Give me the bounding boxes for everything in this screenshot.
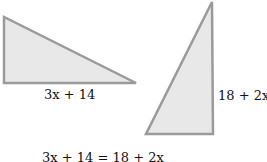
right-triangle-side-label: 18 + 2x [218, 88, 267, 103]
left-triangle-base-label: 3x + 14 [44, 87, 95, 102]
diagram-canvas [0, 0, 267, 162]
right-triangle [146, 2, 213, 134]
equation-text: 3x + 14 = 18 + 2x [42, 150, 164, 162]
left-triangle [4, 17, 136, 83]
